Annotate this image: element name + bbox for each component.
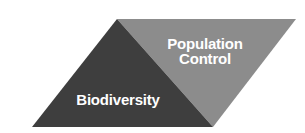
label-population-control: Population Control [143, 36, 267, 67]
diagram-canvas: Population Control Biodiversity [0, 0, 305, 133]
label-biodiversity: Biodiversity [56, 92, 180, 107]
